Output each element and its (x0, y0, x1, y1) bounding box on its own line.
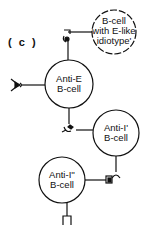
anti-e-line2: B-cell (47, 84, 91, 94)
panel-label: ( c ) (8, 37, 38, 47)
e-like-line3: idiotype' (92, 36, 136, 46)
anti-i1-line2: B-cell (94, 133, 138, 143)
anti-e-lower-receptor-icon (62, 125, 73, 132)
anti-e-cell-label: Anti-E B-cell (47, 74, 91, 94)
left-receptor-icon (11, 79, 22, 91)
e-like-cell-label: B-cell with E-like idiotype' (92, 16, 136, 46)
anti-i2-cell-label: Anti-I'' B-cell (40, 170, 84, 190)
bottom-fork-icon (63, 216, 71, 225)
anti-i2-receptor-icon (106, 175, 120, 183)
anti-i1-cell-label: Anti-I' B-cell (94, 123, 138, 143)
anti-i2-line2: B-cell (40, 180, 84, 190)
